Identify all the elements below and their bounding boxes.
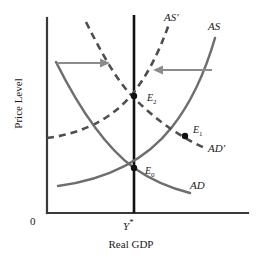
- ad-as-diagram: Price Level Real GDP 0 Y* AS′ AS AD′ AD …: [0, 0, 262, 262]
- equilibrium-label-e2: E2: [147, 93, 157, 106]
- equilibrium-point-e2: [131, 93, 137, 99]
- potential-output-star: *: [129, 217, 134, 227]
- as-curve: [58, 38, 215, 186]
- ad-shift-arrow: [57, 59, 110, 68]
- equilibrium-point-e1: [182, 133, 188, 139]
- ad-curve-label: AD: [190, 180, 205, 191]
- ad-prime-curve-label: AD′: [208, 143, 225, 154]
- eq-subscript-e0: 0: [151, 171, 155, 179]
- equilibrium-label-e0: E0: [145, 166, 155, 179]
- potential-output-label: Y*: [123, 218, 134, 232]
- eq-subscript-e2: 2: [153, 98, 157, 106]
- origin-label: 0: [30, 216, 36, 227]
- x-axis-title: Real GDP: [76, 239, 186, 250]
- ad-prime-curve: [86, 22, 207, 149]
- eq-subscript-e1: 1: [199, 130, 203, 138]
- as-prime-curve-label: AS′: [164, 12, 179, 23]
- y-axis-title: Price Level: [13, 68, 24, 140]
- equilibrium-point-e0: [131, 165, 137, 171]
- equilibrium-label-e1: E1: [193, 125, 203, 138]
- as-curve-label: AS: [208, 21, 220, 32]
